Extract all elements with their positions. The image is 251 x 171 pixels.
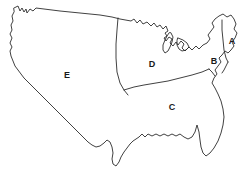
- chesapeake-bay-detail: [222, 62, 228, 73]
- map-outline-graphic: [0, 0, 251, 171]
- region-label-e: E: [64, 71, 70, 80]
- us-national-outline: [10, 6, 237, 166]
- region-label-c: C: [169, 103, 176, 112]
- region-label-d: D: [149, 60, 156, 69]
- region-label-a: A: [229, 37, 236, 46]
- united-states-regions-map: A B C D E: [0, 0, 251, 171]
- region-label-b: B: [211, 57, 218, 66]
